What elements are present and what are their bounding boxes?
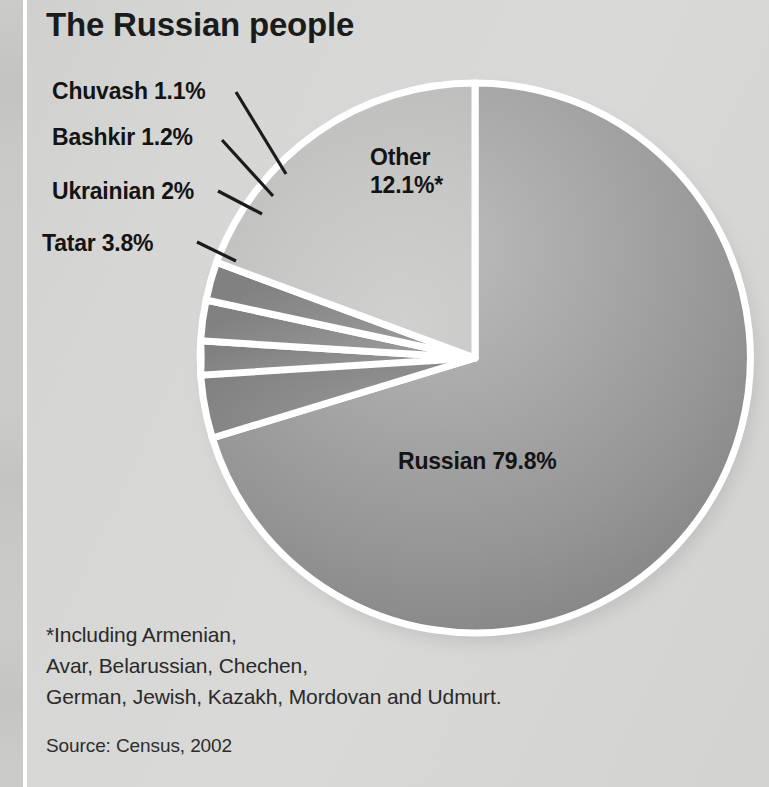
infographic-panel: The Russian people Chuvash 1.1% Bashkir … — [0, 0, 769, 787]
label-other-line2: 12.1%* — [370, 171, 443, 199]
footnote-text: *Including Armenian, Avar, Belarussian, … — [46, 620, 501, 713]
leader-line-bashkir — [222, 140, 273, 196]
label-russian: Russian 79.8% — [398, 447, 556, 475]
label-other-line1: Other — [370, 143, 443, 171]
label-bashkir: Bashkir 1.2% — [52, 124, 193, 151]
source-text: Source: Census, 2002 — [46, 735, 232, 757]
label-tatar: Tatar 3.8% — [42, 230, 153, 257]
label-chuvash: Chuvash 1.1% — [52, 78, 206, 105]
label-ukrainian: Ukrainian 2% — [52, 178, 194, 205]
page-title: The Russian people — [46, 6, 354, 44]
label-other: Other 12.1%* — [370, 143, 443, 199]
